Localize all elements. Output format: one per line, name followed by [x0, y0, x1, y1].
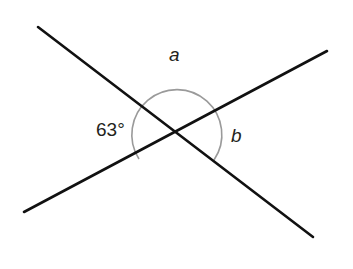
line-2	[24, 51, 327, 212]
angle-a-label: a	[169, 45, 180, 64]
angle-b-label: b	[231, 126, 242, 145]
diagram-canvas	[0, 0, 353, 269]
angle-63-label: 63°	[96, 120, 125, 139]
angle-diagram: a 63° b	[0, 0, 353, 269]
angle-arc	[132, 90, 222, 160]
